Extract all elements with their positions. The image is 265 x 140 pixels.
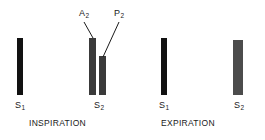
inspiration-label: INSPIRATION [29,119,86,128]
bar-insp-s1 [17,38,23,95]
bar-exp-s2 [233,40,243,95]
p2-label: P2 [114,9,124,18]
leader-line-p2-label [103,22,119,57]
exp-s2-label: S2 [234,101,244,110]
exp-s1-label: S1 [159,101,169,110]
heart-sound-splitting-diagram: A2P2 S1S2S1S2 INSPIRATIONEXPIRATION [0,0,265,140]
bar-exp-s1 [161,38,167,95]
insp-s1-label: S1 [15,101,25,110]
insp-s2-label: S2 [94,101,104,110]
leader-line-a2-label [84,22,93,38]
a2-label: A2 [79,9,89,18]
expiration-label: EXPIRATION [161,119,215,128]
bar-insp-s2-p2 [99,56,106,95]
bar-insp-s2-a2 [89,38,96,95]
